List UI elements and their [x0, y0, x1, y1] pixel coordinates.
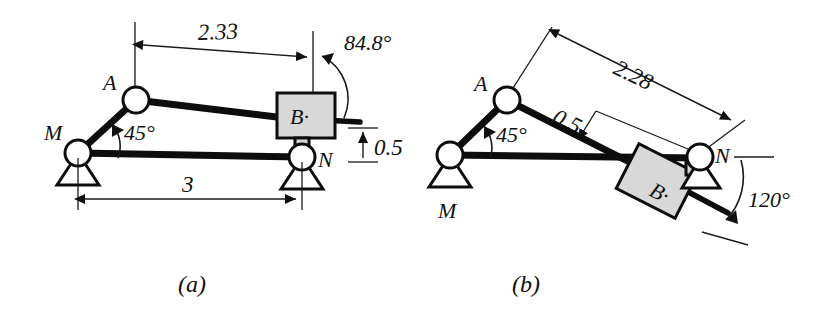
panel-caption-b: (b) [512, 271, 540, 297]
joint-label-n-a: N [317, 147, 334, 172]
joint-label-a-a: A [101, 70, 117, 95]
dimension-line-2-33 [143, 45, 307, 57]
pin-joint-m-b [437, 142, 463, 168]
joint-label-m-a: M [43, 120, 64, 145]
joint-label-m-b: M [437, 198, 458, 223]
panel-b: 2.28 0.5 B· M N [429, 27, 790, 297]
dimension-label-2-33: 2.33 [197, 19, 238, 45]
angle-label-45-a: 45° [124, 120, 155, 145]
linkage-figure: 2.33 84.8° B· M N [0, 0, 833, 316]
dimension-label-2-28: 2.28 [610, 55, 658, 95]
angle-label-84-8: 84.8° [344, 30, 392, 55]
joint-label-a-b: A [472, 71, 488, 96]
extension-line-b-left [508, 27, 552, 96]
block-label-b-a: B· [290, 104, 309, 129]
joint-label-n-b: N [714, 143, 731, 168]
pin-joint-n-b [687, 144, 713, 170]
pin-joint-a-a [123, 87, 149, 113]
panel-caption-a: (a) [178, 271, 206, 297]
panel-a: 2.33 84.8° B· M N [43, 19, 403, 297]
dimension-label-3: 3 [181, 172, 194, 197]
pin-joint-a-b [494, 87, 520, 113]
angle-label-120: 120° [748, 187, 790, 212]
dimension-label-0-5-a: 0.5 [374, 135, 403, 160]
angle-label-45-b: 45° [496, 122, 527, 147]
figure-canvas: 2.33 84.8° B· M N [0, 0, 833, 316]
member-mn-a [78, 153, 302, 157]
member-ab-a [136, 100, 285, 118]
reference-line-120-lower [702, 232, 748, 245]
